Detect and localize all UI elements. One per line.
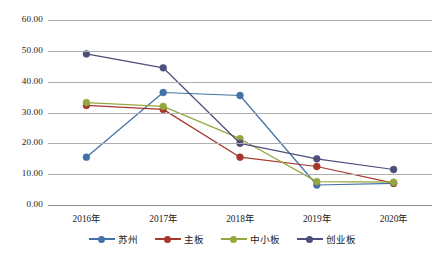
x-axis-tick-label: 2020年 (359, 211, 429, 225)
legend-item-3[interactable]: 创业板 (297, 232, 356, 246)
x-axis-tick-label: 2018年 (205, 211, 275, 225)
line-chart: 苏州主板中小板创业板 0.0010.0020.0030.0040.0050.00… (0, 0, 444, 256)
x-axis-tick-label: 2019年 (282, 211, 352, 225)
y-axis-tick-label: 40.00 (0, 76, 43, 86)
legend-swatch-icon (221, 234, 247, 244)
legend-label: 苏州 (118, 232, 138, 246)
legend-swatch-icon (89, 234, 115, 244)
gridline (48, 113, 432, 114)
x-axis-tick-label: 2016年 (51, 211, 121, 225)
legend-item-2[interactable]: 中小板 (221, 232, 280, 246)
x-axis-line (48, 205, 432, 206)
gridline (48, 51, 432, 52)
gridline (48, 82, 432, 83)
x-axis-tick-label: 2017年 (128, 211, 198, 225)
y-axis-tick-label: 30.00 (0, 107, 43, 117)
legend-item-1[interactable]: 主板 (155, 232, 204, 246)
y-axis-tick-label: 10.00 (0, 168, 43, 178)
y-axis-tick-label: 20.00 (0, 137, 43, 147)
gridline (48, 143, 432, 144)
gridline (48, 174, 432, 175)
y-axis-tick-label: 60.00 (0, 14, 43, 24)
legend-item-0[interactable]: 苏州 (89, 232, 138, 246)
legend-swatch-icon (297, 234, 323, 244)
chart-legend: 苏州主板中小板创业板 (0, 232, 444, 246)
legend-label: 主板 (184, 232, 204, 246)
y-axis-tick-label: 0.00 (0, 199, 43, 209)
legend-swatch-icon (155, 234, 181, 244)
y-axis-tick-label: 50.00 (0, 45, 43, 55)
gridline (48, 20, 432, 21)
legend-label: 创业板 (326, 232, 356, 246)
legend-label: 中小板 (250, 232, 280, 246)
